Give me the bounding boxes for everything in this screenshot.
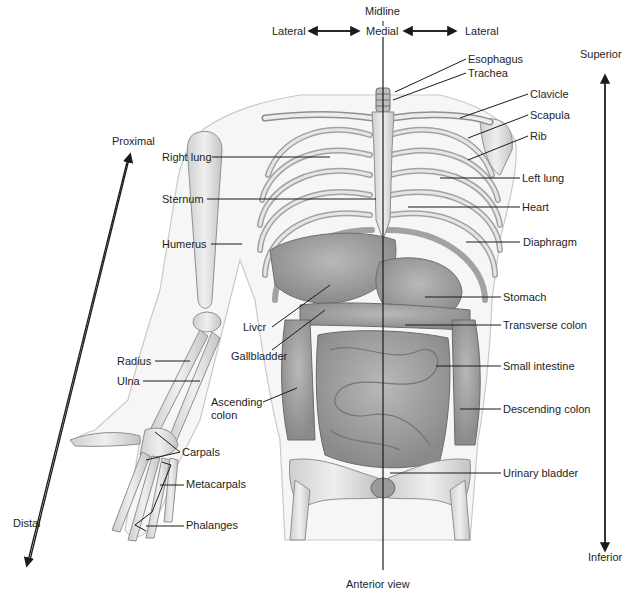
- superior-label: Superior: [580, 48, 622, 61]
- label-carpals: Carpals: [182, 446, 220, 459]
- label-esophagus: Esophagus: [468, 53, 523, 66]
- label-sternum: Sternum: [162, 193, 204, 206]
- midline-label: Midline: [365, 5, 400, 18]
- label-transverse-colon: Transverse colon: [503, 319, 587, 332]
- medial-label: Medial: [366, 25, 398, 38]
- thumb-bones: [70, 433, 140, 447]
- lateral-right-label: Lateral: [465, 25, 499, 38]
- label-stomach: Stomach: [503, 291, 546, 304]
- descending-colon-shape: [452, 320, 480, 445]
- label-small-intestine: Small intestine: [503, 360, 575, 373]
- label-liver: Livcr: [243, 321, 266, 334]
- label-phalanges: Phalanges: [186, 519, 238, 532]
- label-metacarpals: Metacarpals: [186, 478, 246, 491]
- label-ascending-colon: Ascending colon: [211, 396, 271, 422]
- inferior-label: Inferior: [588, 551, 622, 564]
- label-gallbladder: Gallbladder: [231, 350, 287, 363]
- label-urinary-bladder: Urinary bladder: [503, 467, 578, 480]
- proximal-label: Proximal: [112, 135, 155, 148]
- anatomy-diagram: Midline Medial Lateral Lateral Superior …: [0, 0, 635, 597]
- ascending-colon-shape: [282, 320, 315, 440]
- distal-label: Distal: [13, 517, 41, 530]
- label-humerus: Humerus: [162, 238, 207, 251]
- label-left-lung: Left lung: [522, 172, 564, 185]
- lateral-left-label: Lateral: [272, 25, 306, 38]
- label-trachea: Trachea: [468, 67, 508, 80]
- label-diaphragm: Diaphragm: [523, 236, 577, 249]
- label-rib: Rib: [530, 130, 547, 143]
- label-scapula: Scapula: [530, 109, 570, 122]
- label-radius: Radius: [117, 355, 151, 368]
- label-descending-colon: Descending colon: [503, 403, 590, 416]
- label-ulna: Ulna: [117, 375, 140, 388]
- label-right-lung: Right lung: [162, 151, 212, 164]
- label-heart: Heart: [522, 201, 549, 214]
- label-clavicle: Clavicle: [530, 88, 569, 101]
- view-caption: Anterior view: [346, 578, 410, 591]
